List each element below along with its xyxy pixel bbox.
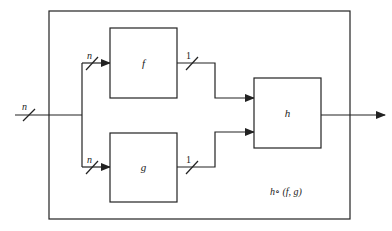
from-g-bus-label: 1 [186,154,191,165]
to-g-bus-label: n [87,154,92,165]
to-f-bus-label: n [87,50,92,61]
box-h-label: h [285,107,291,119]
box-g-label: g [141,161,147,173]
input-bus-label: n [22,101,27,112]
composite-label: h∘ (f, g) [270,186,303,198]
from-f-bus-label: 1 [186,50,191,61]
composition-diagram: n n n f g 1 1 h h∘ (f, g) [0,0,392,231]
